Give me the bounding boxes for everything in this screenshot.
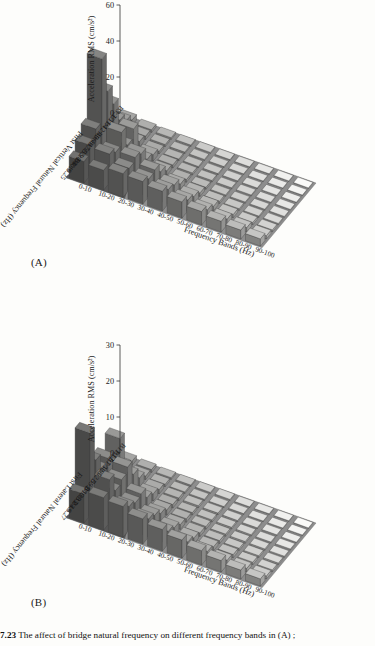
svg-text:40: 40 [106,37,114,46]
svg-text:10: 10 [106,413,114,422]
svg-text:Acceleration RMS (cm/s²): Acceleration RMS (cm/s²) [87,15,96,102]
svg-text:Acceleration RMS (cm/s²): Acceleration RMS (cm/s²) [87,355,96,442]
svg-text:90-100: 90-100 [254,585,276,599]
panel-label-a: (A) [31,256,47,268]
figure-caption: 7.23 The affect of bridge natural freque… [0,630,375,641]
chart-panel-b: 0102030Acceleration RMS (cm/s²)B11:1.5B1… [0,322,375,622]
caption-number: 7.23 [0,630,16,640]
chart-panel-a: 0204060Acceleration RMS (cm/s²)B3:3.5B11… [0,0,375,322]
bar3d-plot-a: 0204060Acceleration RMS (cm/s²)B3:3.5B11… [0,0,375,322]
svg-text:30: 30 [106,341,114,350]
svg-text:20: 20 [106,73,114,82]
caption-text: The affect of bridge natural frequency o… [18,630,295,640]
svg-text:90-100: 90-100 [254,245,276,259]
svg-text:60: 60 [106,1,114,10]
bar3d-plot-b: 0102030Acceleration RMS (cm/s²)B11:1.5B1… [0,322,375,622]
panel-label-b: (B) [31,596,46,608]
svg-text:20: 20 [106,377,114,386]
figure-container: 0204060Acceleration RMS (cm/s²)B3:3.5B11… [0,0,375,646]
